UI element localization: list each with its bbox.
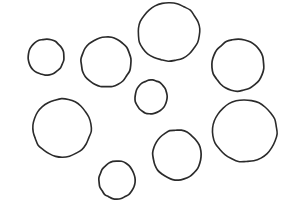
background: [0, 0, 294, 215]
image-canvas: [0, 0, 294, 215]
circles-drawing: [0, 0, 294, 215]
